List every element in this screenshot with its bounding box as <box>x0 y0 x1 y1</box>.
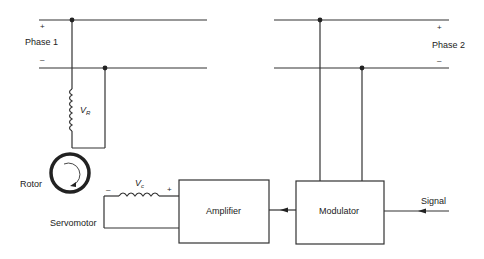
reference-winding-coil <box>70 89 73 131</box>
phase2-plus-label: + <box>437 23 442 32</box>
rotation-arrowhead <box>70 182 76 187</box>
control-voltage-label: Vc <box>135 178 144 189</box>
signal-arrowhead <box>418 209 426 214</box>
rotor-label: Rotor <box>20 179 42 189</box>
reference-voltage-label: VR <box>80 105 90 116</box>
servomotor-ring <box>51 154 89 192</box>
phase1-label: Phase 1 <box>25 37 58 47</box>
signal-label: Signal <box>421 196 446 206</box>
phase1-plus-label: + <box>40 22 45 31</box>
modulator-output-arrowhead <box>280 208 288 213</box>
servo-diagram: + Phase 1 – + Phase 2 – VR Vc – + Rotor … <box>0 0 484 259</box>
phase2-label: Phase 2 <box>432 40 465 50</box>
control-plus-label: + <box>167 185 172 194</box>
modulator-label: Modulator <box>319 206 359 216</box>
control-winding-coil <box>119 193 159 196</box>
rotation-arc <box>64 163 80 185</box>
amplifier-label: Amplifier <box>206 206 241 216</box>
servomotor-label: Servomotor <box>50 218 97 228</box>
phase2-minus-label: – <box>437 56 441 65</box>
phase1-minus-label: – <box>40 55 44 64</box>
control-minus-label: – <box>106 185 110 194</box>
